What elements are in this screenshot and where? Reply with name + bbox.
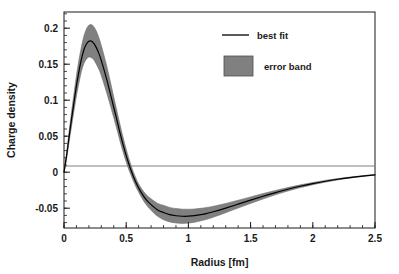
y-axis-tick-label: 0.15 bbox=[39, 59, 59, 70]
y-axis-tick-label: 0 bbox=[52, 167, 58, 178]
legend-label-error-band: error band bbox=[264, 61, 312, 72]
chart-figure: 00.511.522.5 0.20.150.10.050-0.05 Radius… bbox=[0, 0, 399, 274]
y-axis-tick-label: 0.2 bbox=[44, 23, 58, 34]
y-axis-tick-label: -0.05 bbox=[35, 203, 58, 214]
x-axis-tick-label: 2.5 bbox=[368, 233, 382, 244]
x-axis-tick-label: 0.5 bbox=[119, 233, 133, 244]
x-axis-tick-label: 1.5 bbox=[244, 233, 258, 244]
x-axis-tick-label: 1 bbox=[186, 233, 192, 244]
y-axis-title: Charge density bbox=[5, 82, 17, 158]
figure-background bbox=[0, 0, 399, 274]
x-axis-tick-label: 0 bbox=[61, 233, 67, 244]
x-axis-title: Radius [fm] bbox=[191, 256, 249, 268]
y-axis-tick-label: 0.05 bbox=[39, 131, 59, 142]
legend-swatch-marker bbox=[224, 56, 253, 76]
y-axis-tick-label: 0.1 bbox=[44, 95, 58, 106]
charge-density-plot: 00.511.522.5 0.20.150.10.050-0.05 Radius… bbox=[0, 0, 399, 274]
x-axis-tick-label: 2 bbox=[310, 233, 316, 244]
legend-label-best-fit: best fit bbox=[257, 30, 289, 41]
